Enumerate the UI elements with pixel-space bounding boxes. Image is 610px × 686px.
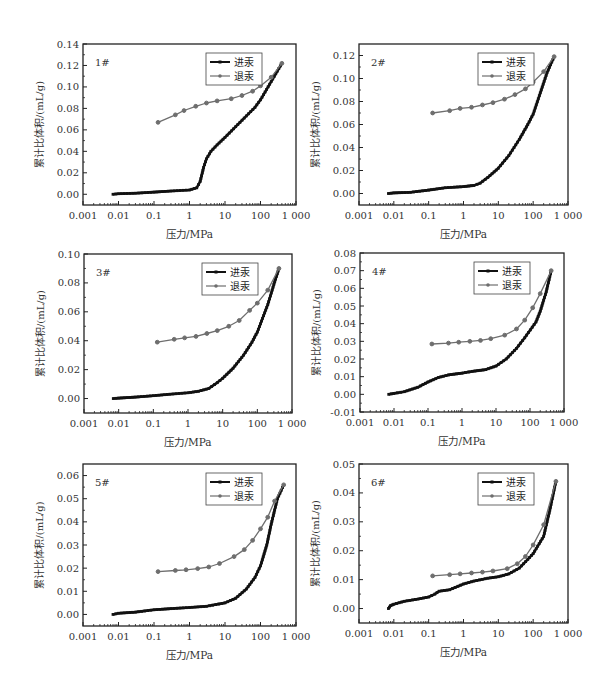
y-tick-label: 0.12	[57, 60, 79, 71]
y-tick-label: 0.02	[58, 364, 80, 375]
plot-frame	[360, 253, 564, 412]
x-tick-label: 1	[186, 631, 192, 642]
legend-extrusion-label: 退汞	[234, 491, 254, 502]
x-tick-label: 10	[490, 417, 503, 428]
x-tick-label: 0.001	[345, 628, 374, 639]
plot-frame	[83, 464, 296, 626]
x-tick-label: 1	[460, 210, 466, 221]
y-tick-label: 0.06	[58, 306, 80, 317]
legend: 进汞退汞	[206, 53, 262, 85]
x-axis-label: 压力/MPa	[440, 228, 487, 240]
x-tick-label: 0.001	[69, 210, 98, 221]
x-tick-label: 1 000	[554, 210, 583, 221]
x-tick-label: 1 000	[278, 418, 307, 429]
y-tick-label: 0.01	[57, 586, 79, 597]
y-tick-label: 0.01	[333, 574, 355, 585]
x-tick-label: 0.1	[146, 210, 162, 221]
chart-panel-2: 0.0010.010.11101001 000压力/MPa0.000.020.0…	[309, 44, 582, 240]
y-tick-label: 0.04	[333, 487, 355, 498]
x-tick-label: 0.1	[146, 631, 162, 642]
legend-extrusion-label: 退汞	[230, 281, 250, 292]
x-tick-label: 10	[216, 418, 229, 429]
x-tick-label: 1 000	[550, 417, 579, 428]
y-tick-label: 0.00	[57, 609, 79, 620]
chart-panel-1: 0.0010.010.11101001 000压力/MPa0.000.020.0…	[33, 39, 310, 241]
y-tick-label: 0.02	[57, 167, 79, 178]
y-tick-label: 0.10	[333, 73, 355, 84]
y-tick-label: 0.02	[334, 354, 356, 365]
y-tick-label: 0.04	[57, 516, 79, 527]
y-axis-label: 累计比体积/(mL/g)	[310, 289, 322, 376]
y-tick-label: 0.05	[334, 301, 356, 312]
y-tick-label: 0.14	[57, 39, 79, 50]
panel-label: 4#	[372, 266, 387, 277]
y-tick-label: 0.00	[57, 189, 79, 200]
x-tick-label: 100	[251, 210, 270, 221]
legend-intrusion-label: 进汞	[502, 266, 522, 277]
x-tick-label: 1	[186, 210, 192, 221]
y-axis-label: 累计比体积/(mL/g)	[34, 290, 46, 377]
legend-intrusion-label: 进汞	[234, 57, 254, 68]
y-axis-label: 累计比体积/(mL/g)	[33, 81, 45, 168]
x-tick-label: 0.1	[420, 417, 436, 428]
y-tick-label: 0.08	[57, 103, 79, 114]
y-tick-label: 0.06	[57, 124, 79, 135]
plot-frame	[359, 44, 568, 205]
x-axis-label: 压力/MPa	[438, 435, 485, 447]
y-axis-label: 累计比体积/(mL/g)	[33, 501, 45, 588]
x-tick-label: 1	[459, 417, 465, 428]
y-tick-label: 0.05	[333, 459, 355, 470]
y-tick-label: 0.06	[57, 470, 79, 481]
y-tick-label: 0.00	[333, 603, 355, 614]
y-tick-label: 0.06	[333, 119, 355, 130]
y-tick-label: 0.10	[57, 81, 79, 92]
y-tick-label: 0.10	[58, 249, 80, 260]
chart-panel-6: 0.0010.010.11101001 000压力/MPa0.000.010.0…	[309, 459, 582, 659]
x-tick-label: 100	[520, 417, 539, 428]
x-tick-label: 0.01	[383, 628, 405, 639]
x-tick-label: 1 000	[282, 210, 311, 221]
y-tick-label: -0.01	[330, 407, 356, 418]
chart-panel-3: 0.0010.010.11101001 000压力/MPa0.000.020.0…	[34, 249, 306, 449]
plot-frame	[359, 464, 568, 623]
x-tick-label: 0.01	[108, 418, 130, 429]
x-tick-label: 10	[492, 210, 505, 221]
y-tick-label: 0.02	[333, 545, 355, 556]
x-axis-label: 压力/MPa	[166, 228, 213, 240]
chart-panel-5: 0.0010.010.11101001 000压力/MPa0.000.010.0…	[33, 464, 310, 661]
x-axis-label: 压力/MPa	[164, 436, 211, 448]
chart-grid: 0.0010.010.11101001 000压力/MPa0.000.020.0…	[0, 0, 610, 686]
legend: 进汞退汞	[202, 263, 258, 295]
x-tick-label: 0.1	[421, 628, 437, 639]
x-tick-label: 0.001	[69, 631, 98, 642]
panel-label: 5#	[95, 477, 110, 488]
legend-extrusion-label: 退汞	[234, 71, 254, 82]
y-tick-label: 0.06	[334, 283, 356, 294]
y-tick-label: 0.08	[333, 96, 355, 107]
y-tick-label: 0.04	[333, 142, 355, 153]
y-tick-label: 0.04	[334, 318, 356, 329]
y-tick-label: 0.03	[57, 540, 79, 551]
x-tick-label: 0.1	[421, 210, 437, 221]
x-tick-label: 0.001	[70, 418, 99, 429]
y-tick-label: 0.03	[334, 336, 356, 347]
x-tick-label: 10	[219, 631, 232, 642]
panel-label: 6#	[371, 477, 386, 488]
panel-label: 3#	[96, 267, 111, 278]
legend-intrusion-label: 进汞	[506, 477, 526, 488]
x-tick-label: 10	[219, 210, 232, 221]
x-tick-label: 10	[492, 628, 505, 639]
y-tick-label: 0.00	[334, 389, 356, 400]
y-tick-label: 0.04	[58, 335, 80, 346]
panel-label: 1#	[95, 57, 110, 68]
x-tick-label: 100	[251, 631, 270, 642]
x-tick-label: 1 000	[282, 631, 311, 642]
x-tick-label: 100	[524, 628, 543, 639]
y-tick-label: 0.00	[333, 188, 355, 199]
y-tick-label: 0.04	[57, 146, 79, 157]
x-tick-label: 1	[185, 418, 191, 429]
legend: 进汞退汞	[206, 473, 262, 505]
y-tick-label: 0.00	[58, 393, 80, 404]
legend: 进汞退汞	[474, 262, 530, 294]
x-tick-label: 100	[524, 210, 543, 221]
